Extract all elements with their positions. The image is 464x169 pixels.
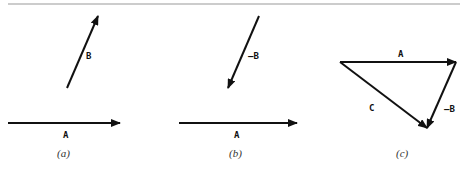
panel-c: A C —B (c) (340, 49, 456, 160)
vector-a-label: A (63, 130, 69, 140)
vector-b (67, 16, 98, 88)
caption-a: (a) (57, 147, 70, 160)
vector-neg-b-label: —B (444, 104, 455, 114)
vector-neg-b (427, 62, 456, 128)
panel-a: B A (a) (8, 16, 120, 160)
vector-c (340, 62, 427, 128)
vector-b-label: B (86, 51, 92, 61)
panel-b: —B A (b) (179, 16, 297, 160)
vector-a-label: A (234, 130, 240, 140)
vector-neg-b-label: —B (248, 51, 259, 61)
vector-a-label: A (398, 49, 404, 59)
caption-b: (b) (229, 147, 242, 160)
caption-c: (c) (396, 147, 409, 160)
vector-diagram: B A (a) —B A (b) A C —B (c) (0, 0, 464, 169)
vector-c-label: C (369, 103, 374, 113)
